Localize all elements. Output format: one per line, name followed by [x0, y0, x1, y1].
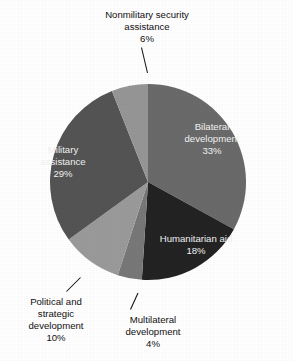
pie-chart-svg: Bilateral development 33% Humanitarian a…: [0, 0, 294, 361]
pie-chart-figure: Bilateral development 33% Humanitarian a…: [0, 0, 294, 361]
slice-label-bilateral-development-line2: development: [185, 133, 240, 144]
slice-label-humanitarian-aid-line1: Humanitarian aid: [160, 233, 233, 244]
slice-value-bilateral-development: 33%: [202, 145, 222, 156]
slice-label-bilateral-development-line1: Bilateral: [195, 121, 230, 132]
slice-label-political-and-strategic-development-line2: strategic: [38, 308, 74, 319]
slice-value-multilateral-development: 4%: [146, 338, 160, 349]
slice-label-political-and-strategic-development-line3: development: [29, 320, 84, 331]
slice-label-nonmilitary-security-assistance-line2: assistance: [124, 21, 169, 32]
slice-label-military-assistance-line2: assistance: [40, 156, 85, 167]
slice-label-multilateral-development-line1: Multilateral: [130, 314, 176, 325]
leader-line-multilateral-development: [131, 293, 139, 310]
leader-line-nonmilitary-security-assistance: [142, 48, 148, 74]
slice-label-nonmilitary-security-assistance-line1: Nonmilitary security: [105, 9, 189, 20]
slice-label-political-and-strategic-development-line1: Political and: [30, 296, 82, 307]
slice-value-political-and-strategic-development: 10%: [46, 332, 66, 343]
slice-label-military-assistance-line1: Military: [48, 144, 79, 155]
leader-line-political-and-strategic-development: [67, 278, 81, 292]
slice-value-nonmilitary-security-assistance: 6%: [140, 33, 154, 44]
slice-value-humanitarian-aid: 18%: [186, 245, 206, 256]
slice-value-military-assistance: 29%: [53, 168, 73, 179]
slice-label-multilateral-development-line2: development: [126, 326, 181, 337]
